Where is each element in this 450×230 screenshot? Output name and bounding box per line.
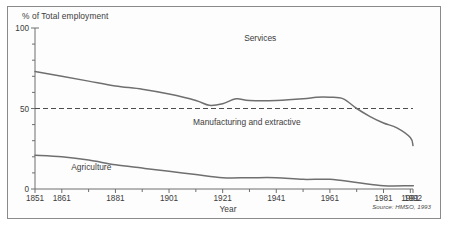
y-tick-label-0: 0 [24,185,29,194]
source-note: Source: HMSO, 1993 [372,203,431,210]
x-tick-label-1901: 1901 [160,194,179,203]
annotation-manufacturing-and-extractive: Manufacturing and extractive [193,117,301,127]
y-tick-labels: 050100 [15,24,29,194]
x-tick-label-1851: 1851 [26,194,45,203]
x-tick-label-1961: 1961 [321,194,340,203]
chart-figure: % of Total employment 185118611881190119… [0,0,450,230]
x-axis-title: Year [220,204,237,214]
x-tick-label-1881: 1881 [106,194,125,203]
annotation-services: Services [244,33,276,43]
annotation-agriculture: Agriculture [71,162,111,172]
y-tick-label-50: 50 [20,105,30,114]
plot-area: 1851186118811901192119411961198119911992… [0,0,450,230]
x-tick-label-1921: 1921 [214,194,233,203]
x-tick-label-1941: 1941 [267,194,286,203]
series-annotations: ServicesManufacturing and extractiveAgri… [71,33,301,172]
x-tick-label-1992: 1992 [404,194,423,203]
x-tick-label-1861: 1861 [53,194,72,203]
x-tick-labels: 1851186118811901192119411961198119911992 [26,194,423,203]
line-chart-svg: 1851186118811901192119411961198119911992… [0,0,450,230]
y-tick-label-100: 100 [15,24,29,33]
x-tick-label-1981: 1981 [374,194,393,203]
